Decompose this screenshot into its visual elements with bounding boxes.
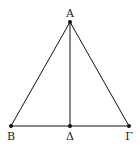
point-D [68, 124, 72, 128]
label-G: Γ [125, 130, 133, 143]
label-B: Β [7, 130, 15, 143]
point-A [68, 20, 72, 24]
triangle-diagram: Α Β Δ Γ [0, 0, 140, 146]
label-A: Α [65, 7, 75, 20]
point-G [127, 124, 131, 128]
segment-AG [70, 22, 129, 126]
label-D: Δ [66, 130, 74, 143]
segment-AB [11, 22, 70, 126]
point-B [9, 124, 13, 128]
